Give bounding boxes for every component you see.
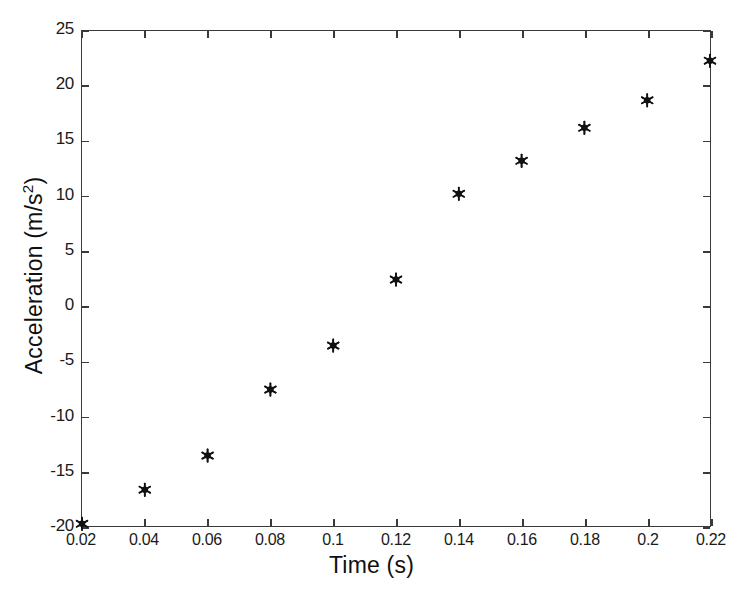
y-axis-title-exponent: 2	[19, 185, 36, 194]
y-tick-mark	[82, 527, 89, 529]
x-tick-label: 0.18	[555, 531, 615, 549]
plot-axes-frame	[81, 30, 711, 527]
x-tick-label: 0.04	[114, 531, 174, 549]
data-point-marker	[139, 484, 150, 496]
data-points-layer	[82, 31, 710, 526]
y-axis-title-base: Acceleration (m/s	[21, 193, 47, 374]
data-point-marker	[265, 383, 276, 395]
data-point-marker	[328, 339, 339, 351]
x-axis-title: Time (s)	[0, 552, 743, 579]
x-tick-label: 0.06	[177, 531, 237, 549]
x-tick-mark	[711, 519, 713, 526]
y-axis-title: Acceleration (m/s2)	[21, 0, 48, 556]
data-point-marker	[516, 155, 527, 167]
x-tick-label: 0.12	[366, 531, 426, 549]
data-point-marker	[642, 94, 653, 106]
x-tick-label: 0.16	[492, 531, 552, 549]
x-tick-label: 0.22	[681, 531, 741, 549]
y-tick-mark-right	[703, 527, 710, 529]
data-point-marker	[705, 55, 716, 67]
x-tick-label: 0.14	[429, 531, 489, 549]
scatter-plot-figure: -20-15-10-50510152025 0.020.040.060.080.…	[0, 0, 743, 595]
y-axis-title-close: )	[21, 177, 47, 185]
x-tick-label: 0.2	[618, 531, 678, 549]
data-point-marker	[579, 122, 590, 134]
data-point-marker	[453, 188, 464, 200]
data-point-marker	[202, 449, 213, 461]
x-tick-mark-top	[711, 31, 713, 38]
data-point-marker	[391, 273, 402, 285]
x-tick-label: 0.1	[303, 531, 363, 549]
x-tick-label: 0.02	[51, 531, 111, 549]
x-tick-label: 0.08	[240, 531, 300, 549]
